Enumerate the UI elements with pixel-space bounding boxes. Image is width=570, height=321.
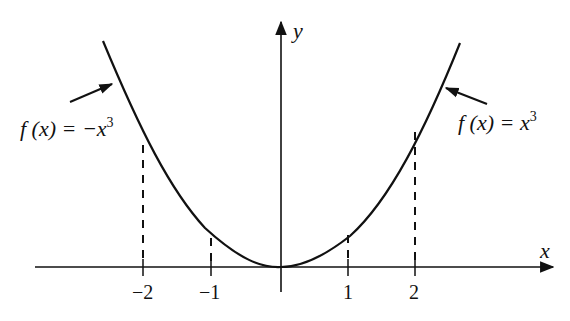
tick-label-neg1: −1 xyxy=(199,281,220,303)
label-arrow-left xyxy=(70,84,112,102)
label-right-prefix: f (x) = xyxy=(458,110,520,135)
tick-label-1: 1 xyxy=(343,281,353,303)
label-right-expr: x xyxy=(519,110,530,135)
label-arrow-right xyxy=(446,88,487,104)
label-left-exp: 3 xyxy=(107,115,114,130)
diagram-canvas: x y −2 −1 1 2 f (x) = −x3 xyxy=(0,0,570,321)
label-left-prefix: f (x) = xyxy=(20,116,82,141)
function-label-right: f (x) = x3 xyxy=(458,109,537,135)
label-right-exp: 3 xyxy=(530,109,537,124)
tick-label-2: 2 xyxy=(409,281,419,303)
figure: x y −2 −1 1 2 f (x) = −x3 xyxy=(0,0,570,321)
tick-label-neg2: −2 xyxy=(132,281,153,303)
x-axis-label: x xyxy=(539,238,550,263)
y-axis-label: y xyxy=(291,18,303,43)
curve-right-branch xyxy=(281,43,460,267)
curve-left-branch xyxy=(103,41,281,267)
dashed-guides xyxy=(143,132,415,262)
function-label-left: f (x) = −x3 xyxy=(20,115,114,141)
label-left-expr: −x xyxy=(82,116,107,141)
